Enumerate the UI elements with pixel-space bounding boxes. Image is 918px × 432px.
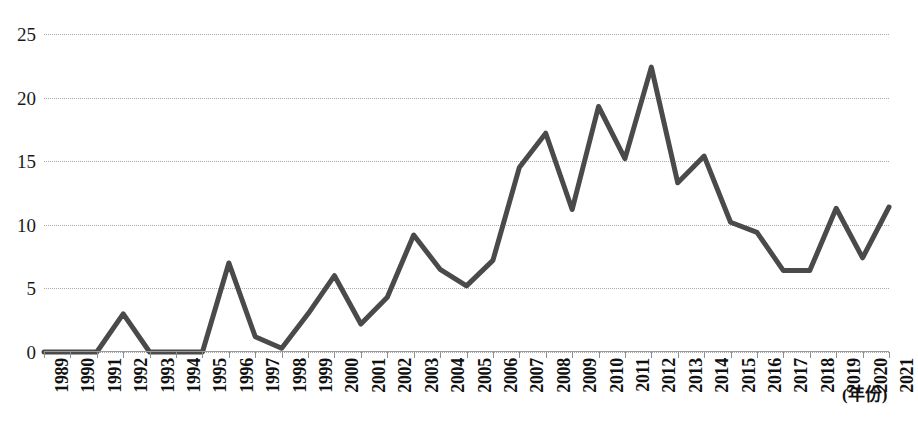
x-tick-label-2001: 2001 — [369, 358, 390, 393]
series-polyline — [44, 67, 889, 352]
x-tick-label-1990: 1990 — [78, 358, 99, 393]
x-tick-label-2013: 2013 — [686, 358, 707, 393]
x-tick-label-1989: 1989 — [52, 358, 73, 393]
x-tick-label-2021: 2021 — [897, 358, 918, 393]
x-tick-label-1999: 1999 — [316, 358, 337, 393]
x-axis-title: (年份) — [842, 380, 887, 405]
x-tick-label-2012: 2012 — [659, 358, 680, 393]
y-axis-tick-labels: 0510152025 — [0, 34, 36, 352]
y-tick-label-5: 5 — [0, 279, 36, 298]
y-tick-label-15: 15 — [0, 152, 36, 171]
x-tick-label-2015: 2015 — [739, 358, 760, 393]
x-tick-label-2007: 2007 — [527, 358, 548, 393]
x-tick-label-2011: 2011 — [633, 358, 654, 392]
y-tick-label-10: 10 — [0, 215, 36, 234]
y-tick-label-20: 20 — [0, 88, 36, 107]
series-line — [44, 34, 889, 352]
x-tick-label-2004: 2004 — [448, 358, 469, 393]
y-tick-label-0: 0 — [0, 343, 36, 362]
x-tick-label-1998: 1998 — [290, 358, 311, 393]
x-tick-label-2014: 2014 — [712, 358, 733, 393]
x-tick-label-2005: 2005 — [475, 358, 496, 393]
x-tick-label-1993: 1993 — [158, 358, 179, 393]
x-tick-label-1996: 1996 — [237, 358, 258, 393]
x-tick-label-2008: 2008 — [554, 358, 575, 393]
x-tick-label-2003: 2003 — [422, 358, 443, 393]
plot-area — [44, 34, 889, 352]
x-tick-label-1994: 1994 — [184, 358, 205, 393]
x-tick-label-2006: 2006 — [501, 358, 522, 393]
x-tick-label-1997: 1997 — [263, 358, 284, 393]
x-tick-label-2002: 2002 — [395, 358, 416, 393]
x-tick-label-2000: 2000 — [342, 358, 363, 393]
x-tick-label-2010: 2010 — [607, 358, 628, 393]
x-tick-label-2018: 2018 — [818, 358, 839, 393]
x-tick-label-2017: 2017 — [791, 358, 812, 393]
x-tick-label-2009: 2009 — [580, 358, 601, 393]
x-tick-label-2016: 2016 — [765, 358, 786, 393]
y-tick-label-25: 25 — [0, 25, 36, 44]
x-tick-label-1992: 1992 — [131, 358, 152, 393]
x-tick-label-1991: 1991 — [105, 358, 126, 393]
x-axis-tick-labels: 1989199019911992199319941995199619971998… — [44, 358, 889, 428]
x-tick-label-1995: 1995 — [210, 358, 231, 393]
